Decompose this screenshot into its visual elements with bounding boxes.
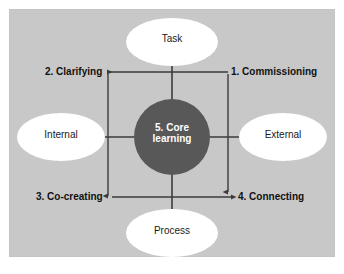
ellipse-process [126,209,218,257]
diagram-figure: Task Process Internal External 5. Core l… [0,0,344,274]
stage-label-cocreating: 3. Co-creating [36,191,103,202]
stage-label-clarifying: 2. Clarifying [45,66,102,77]
stage-label-commissioning: 1. Commissioning [231,66,317,77]
ellipse-external [239,113,327,161]
ellipse-internal [17,113,105,161]
core-learning-label-line2: learning [140,133,204,144]
stage-label-connecting: 4. Connecting [238,191,304,202]
core-learning-label-line1: 5. Core [140,122,204,133]
ellipse-task [126,18,218,66]
core-learning-label: 5. Core learning [140,122,204,144]
